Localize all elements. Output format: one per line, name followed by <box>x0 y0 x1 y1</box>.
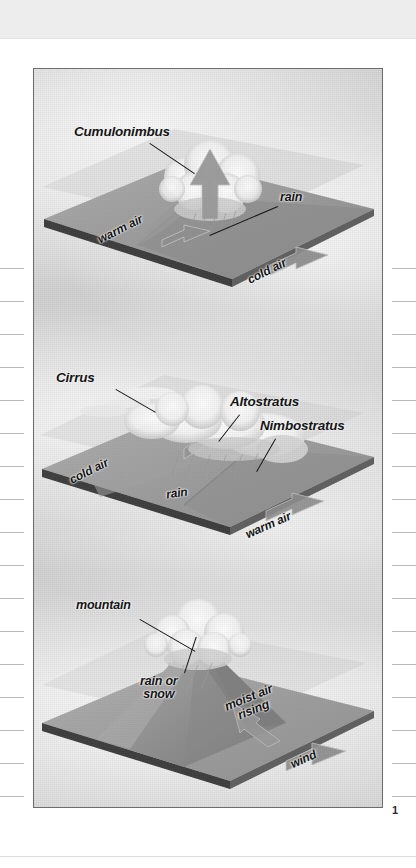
cold-front-panel: Cumulonimbus rain warm air cold air <box>34 69 382 325</box>
label-rain: rain <box>280 191 302 204</box>
label-rain-or-snow-line1: rain or <box>140 674 178 688</box>
margin-tick <box>392 697 416 698</box>
label-altostratus: Altostratus <box>230 395 299 409</box>
label-cumulonimbus: Cumulonimbus <box>74 125 170 139</box>
label-cirrus: Cirrus <box>56 371 95 385</box>
margin-tick <box>0 664 24 665</box>
margin-tick <box>392 730 416 731</box>
margin-tick <box>0 367 24 368</box>
figure-frame: Cumulonimbus rain warm air cold air <box>33 68 383 808</box>
margin-tick <box>0 763 24 764</box>
margin-tick <box>392 763 416 764</box>
margin-tick <box>0 433 24 434</box>
margin-tick <box>0 697 24 698</box>
margin-tick <box>392 433 416 434</box>
margin-tick <box>392 664 416 665</box>
margin-tick <box>392 268 416 269</box>
margin-tick <box>392 565 416 566</box>
warm-front-panel: Cirrus Altostratus Nimbostratus cold air… <box>34 309 382 565</box>
margin-tick <box>392 367 416 368</box>
cold-front-scene <box>34 69 382 325</box>
page-bottom-rule <box>0 856 416 857</box>
margin-tick <box>392 466 416 467</box>
margin-tick <box>0 466 24 467</box>
label-nimbostratus: Nimbostratus <box>260 419 345 433</box>
margin-tick <box>392 631 416 632</box>
margin-tick <box>0 730 24 731</box>
label-rain-or-snow: rain or snow <box>140 675 178 701</box>
margin-tick <box>0 301 24 302</box>
margin-tick <box>0 598 24 599</box>
margin-tick <box>0 565 24 566</box>
margin-tick <box>0 631 24 632</box>
margin-tick <box>392 532 416 533</box>
label-rain-or-snow-line2: snow <box>143 687 174 701</box>
margin-tick <box>392 400 416 401</box>
margin-tick <box>0 532 24 533</box>
orographic-lift-panel: mountain rain or snow moist air rising w… <box>34 553 382 807</box>
margin-tick <box>392 334 416 335</box>
margin-tick <box>0 268 24 269</box>
page-top-band <box>0 0 416 39</box>
page-number: 1 <box>392 804 398 816</box>
label-mountain: mountain <box>76 599 131 612</box>
margin-tick <box>392 598 416 599</box>
margin-tick <box>0 400 24 401</box>
label-rain: rain <box>165 486 188 501</box>
margin-tick <box>0 334 24 335</box>
right-margin-ticks <box>392 268 416 828</box>
warm-front-scene <box>34 309 382 565</box>
orographic-lift-scene <box>34 553 382 807</box>
margin-tick <box>392 499 416 500</box>
margin-tick <box>0 796 24 797</box>
margin-tick <box>0 499 24 500</box>
margin-tick <box>392 796 416 797</box>
left-margin-ticks <box>0 268 24 828</box>
margin-tick <box>392 301 416 302</box>
